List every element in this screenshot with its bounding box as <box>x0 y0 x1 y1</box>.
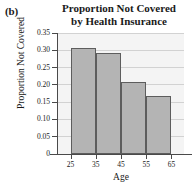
y-axis-tick-label: 0.05 <box>26 133 50 141</box>
y-axis-tick-label: 0.30 <box>26 46 50 54</box>
x-axis-tick <box>146 154 147 159</box>
x-axis-label: Age <box>58 172 184 182</box>
y-axis-tick <box>52 67 57 68</box>
bar <box>96 53 121 154</box>
x-axis-tick <box>96 154 97 159</box>
y-axis-tick <box>52 33 57 34</box>
x-axis-tick <box>71 154 72 159</box>
y-axis-tick-label: 0 <box>26 150 50 158</box>
x-axis-tick-label: 25 <box>60 161 82 169</box>
chart-title: Proportion Not Covered by Health Insuran… <box>44 2 194 28</box>
x-axis-tick-label: 35 <box>85 161 107 169</box>
plot-area <box>58 33 184 154</box>
y-axis-tick <box>52 136 57 137</box>
y-axis-tick <box>52 119 57 120</box>
y-axis-tick <box>52 50 57 51</box>
x-axis-tick <box>171 154 172 159</box>
x-axis-tick-label: 65 <box>160 161 182 169</box>
y-axis-tick <box>52 102 57 103</box>
y-axis-spine <box>57 33 58 155</box>
bar <box>71 48 96 154</box>
bar <box>121 82 146 154</box>
figure-panel-b: (b) Proportion Not Covered by Health Ins… <box>0 0 196 193</box>
y-axis-tick-label: 0.10 <box>26 115 50 123</box>
x-axis-tick <box>121 154 122 159</box>
chart-title-line-2: by Health Insurance <box>44 15 194 28</box>
y-axis-tick-label: 0.20 <box>26 81 50 89</box>
x-axis-tick-label: 45 <box>110 161 132 169</box>
y-axis-tick-label: 0.25 <box>26 64 50 72</box>
gridline <box>58 33 184 34</box>
bar <box>146 96 171 154</box>
y-axis-tick <box>52 154 57 155</box>
y-axis-tick <box>52 84 57 85</box>
x-axis-tick-label: 55 <box>135 161 157 169</box>
y-axis-tick-label: 0.15 <box>26 98 50 106</box>
y-axis-tick-labels: 00.050.100.150.200.250.300.35 <box>24 0 50 193</box>
y-axis-tick-label: 0.35 <box>26 29 50 37</box>
chart-title-line-1: Proportion Not Covered <box>44 2 194 15</box>
